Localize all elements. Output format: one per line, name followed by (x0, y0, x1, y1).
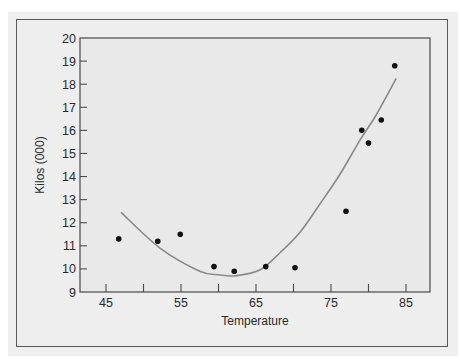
data-point (292, 265, 298, 271)
scatter-chart: 91011121314151617181920 4555657585 Tempe… (0, 0, 460, 362)
data-point (231, 268, 237, 274)
x-tick-label: 55 (174, 296, 188, 310)
y-tick-label: 12 (62, 216, 76, 230)
x-tick-label: 85 (399, 296, 413, 310)
y-tick-label: 9 (69, 286, 76, 300)
data-point (366, 140, 372, 146)
y-tick-label: 20 (62, 32, 76, 46)
data-point (263, 264, 269, 270)
data-point (359, 128, 365, 134)
y-tick-label: 16 (62, 124, 76, 138)
data-point (155, 238, 161, 244)
data-point (116, 236, 122, 242)
y-tick-label: 18 (62, 78, 76, 92)
x-tick-label: 75 (324, 296, 338, 310)
x-tick-label: 45 (99, 296, 113, 310)
data-point (392, 63, 398, 69)
data-point (177, 231, 183, 237)
y-tick-label: 19 (62, 55, 76, 69)
y-tick-label: 11 (63, 239, 76, 253)
x-axis-title: Temperature (221, 314, 289, 328)
data-point (343, 208, 349, 214)
y-tick-label: 15 (62, 147, 76, 161)
y-axis-title: Kilos (000) (33, 136, 47, 193)
x-tick-label: 65 (249, 296, 263, 310)
y-tick-label: 14 (62, 170, 76, 184)
y-tick-label: 13 (62, 193, 76, 207)
y-tick-label: 17 (62, 101, 76, 115)
plot-area (80, 38, 430, 292)
y-tick-label: 10 (62, 262, 76, 276)
data-point (211, 264, 217, 270)
data-point (378, 117, 384, 123)
